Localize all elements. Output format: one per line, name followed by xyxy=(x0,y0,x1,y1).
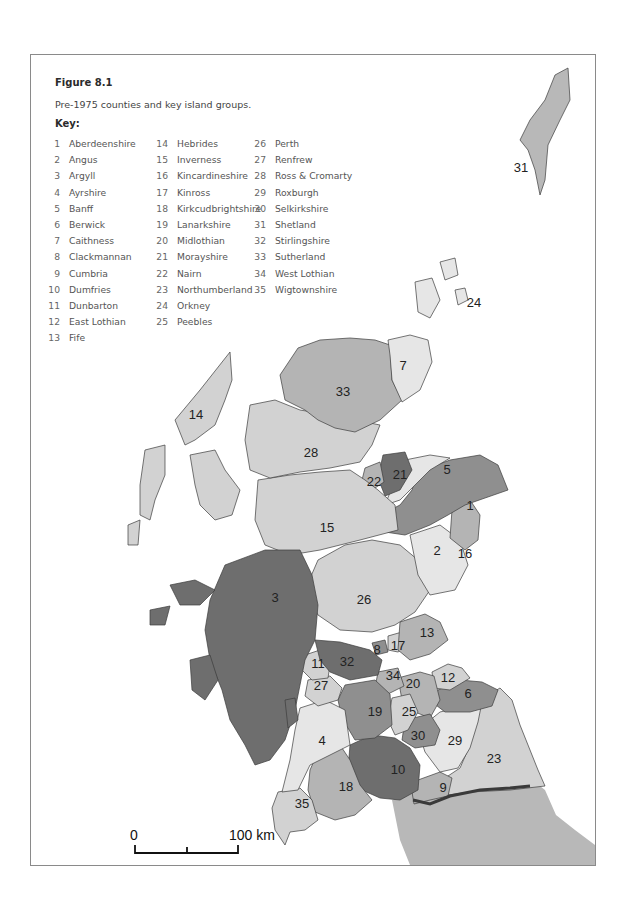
svg-text:3: 3 xyxy=(271,590,278,605)
svg-text:30: 30 xyxy=(411,728,425,743)
svg-text:1: 1 xyxy=(466,498,473,513)
svg-text:2: 2 xyxy=(433,543,440,558)
svg-text:21: 21 xyxy=(393,467,407,482)
svg-text:17: 17 xyxy=(391,638,405,653)
svg-text:20: 20 xyxy=(406,676,420,691)
region-14-hebrides xyxy=(128,352,240,545)
svg-text:10: 10 xyxy=(391,762,405,777)
svg-text:12: 12 xyxy=(441,670,455,685)
scale-start-label: 0 xyxy=(130,827,138,843)
svg-text:11: 11 xyxy=(311,656,325,671)
svg-text:24: 24 xyxy=(467,295,481,310)
svg-text:26: 26 xyxy=(357,592,371,607)
svg-text:9: 9 xyxy=(439,780,446,795)
svg-text:28: 28 xyxy=(304,445,318,460)
region-24-orkney xyxy=(415,258,468,318)
svg-text:8: 8 xyxy=(373,642,380,657)
svg-text:15: 15 xyxy=(320,520,334,535)
svg-text:6: 6 xyxy=(464,686,471,701)
scale-bar: 0 100 km xyxy=(130,827,275,853)
svg-text:25: 25 xyxy=(402,704,416,719)
svg-text:22: 22 xyxy=(367,474,381,489)
svg-text:34: 34 xyxy=(386,668,400,683)
region-31-shetland xyxy=(520,68,570,195)
svg-text:7: 7 xyxy=(399,358,406,373)
svg-text:23: 23 xyxy=(487,751,501,766)
svg-text:18: 18 xyxy=(339,779,353,794)
svg-text:32: 32 xyxy=(340,654,354,669)
svg-text:31: 31 xyxy=(514,160,528,175)
scale-end-label: 100 km xyxy=(229,827,275,843)
svg-text:16: 16 xyxy=(458,546,472,561)
svg-text:5: 5 xyxy=(443,462,450,477)
svg-text:29: 29 xyxy=(448,733,462,748)
scotland-county-map: 1 2 3 4 5 6 7 8 9 10 11 12 13 14 15 16 1… xyxy=(0,0,619,912)
svg-text:4: 4 xyxy=(318,733,325,748)
svg-text:27: 27 xyxy=(314,678,328,693)
svg-text:19: 19 xyxy=(368,704,382,719)
svg-text:13: 13 xyxy=(420,625,434,640)
svg-text:14: 14 xyxy=(189,407,203,422)
svg-text:33: 33 xyxy=(336,384,350,399)
svg-text:35: 35 xyxy=(295,796,309,811)
